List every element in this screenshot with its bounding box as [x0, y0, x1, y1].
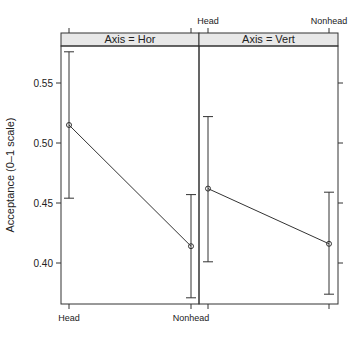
- y-tick-label: 0.45: [34, 198, 54, 209]
- x-tick-label-top: Nonhead: [311, 16, 348, 26]
- y-tick-label: 0.55: [34, 78, 54, 89]
- y-tick-label: 0.40: [34, 258, 54, 269]
- strip-label: Axis = Hor: [104, 33, 155, 45]
- panel-frame-1: [199, 46, 338, 304]
- chart: Axis = HorAxis = Vert0.400.450.500.55Acc…: [0, 0, 359, 337]
- y-tick-label: 0.50: [34, 138, 54, 149]
- strip-label: Axis = Vert: [242, 33, 295, 45]
- x-tick-label-bottom: Nonhead: [173, 313, 210, 323]
- y-axis-label: Acceptance (0–1 scale): [4, 118, 16, 233]
- panel-frame-0: [61, 46, 199, 304]
- series-line: [208, 189, 329, 244]
- x-tick-label-bottom: Head: [58, 313, 80, 323]
- x-tick-label-top: Head: [197, 16, 219, 26]
- series-line: [69, 125, 191, 246]
